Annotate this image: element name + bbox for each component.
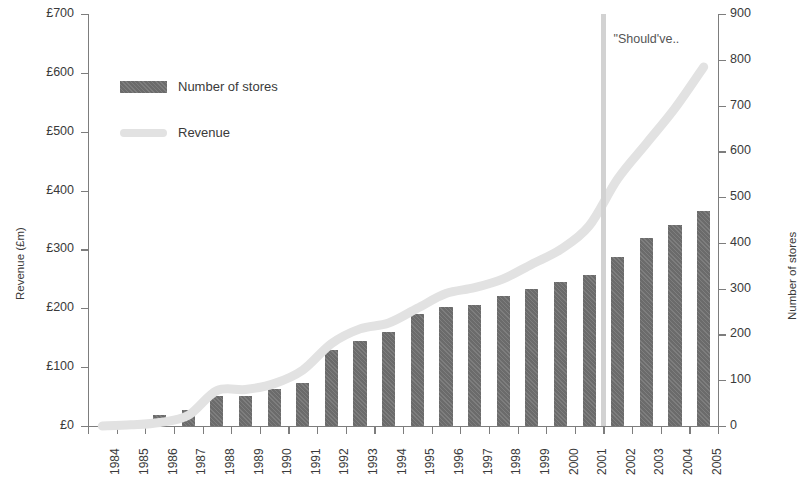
legend-label-revenue: Revenue — [178, 125, 230, 140]
x-tick — [403, 427, 404, 434]
y-tick-left — [81, 367, 88, 368]
y-axis-left-tick-label: £100 — [22, 359, 74, 373]
x-tick — [231, 427, 232, 434]
x-tick — [603, 427, 604, 434]
x-tick — [88, 427, 89, 434]
x-axis-tick-label: 2004 — [681, 448, 695, 475]
y-tick-right — [719, 380, 726, 381]
revenue-line-series — [88, 14, 718, 426]
legend-label-stores: Number of stores — [178, 79, 278, 94]
y-axis-right-title: Number of stores — [786, 232, 798, 320]
x-axis-tick-label: 1993 — [366, 448, 380, 475]
y-axis-left-tick-label: £500 — [22, 124, 74, 138]
y-axis-left-tick-label: £0 — [22, 418, 74, 432]
legend-bar-swatch-icon — [120, 81, 167, 93]
x-tick — [174, 427, 175, 434]
y-tick-left — [81, 426, 88, 427]
y-axis-left-tick-label: £300 — [22, 241, 74, 255]
y-tick-right — [719, 334, 726, 335]
y-axis-left-tick-label: £400 — [22, 183, 74, 197]
x-tick — [518, 427, 519, 434]
y-axis-right-tick-label: 700 — [730, 98, 751, 112]
y-tick-right — [719, 426, 726, 427]
y-tick-left — [81, 73, 88, 74]
x-tick — [346, 427, 347, 434]
x-axis-tick-label: 1995 — [423, 448, 437, 475]
x-axis-tick-label: 1994 — [395, 448, 409, 475]
y-axis-right-tick-label: 600 — [730, 143, 751, 157]
x-axis-tick-label: 2001 — [595, 448, 609, 475]
y-tick-right — [719, 289, 726, 290]
x-tick — [374, 427, 375, 434]
legend-item-stores: Number of stores — [120, 79, 278, 94]
x-axis-tick-label: 1987 — [194, 448, 208, 475]
y-axis-left-title: Revenue (£m) — [14, 227, 26, 300]
y-axis-left-tick-label: £700 — [22, 6, 74, 20]
y-axis-right-line — [718, 14, 719, 427]
annotation-label: "Should've.. — [613, 32, 679, 46]
x-tick — [317, 427, 318, 434]
x-axis-tick-label: 1990 — [280, 448, 294, 475]
annotation-vertical-line — [601, 14, 606, 426]
y-tick-right — [719, 243, 726, 244]
x-axis-tick-label: 1991 — [309, 448, 323, 475]
x-axis-tick-label: 1984 — [108, 448, 122, 475]
x-tick — [689, 427, 690, 434]
x-axis-tick-label: 1999 — [538, 448, 552, 475]
x-axis-tick-label: 1997 — [481, 448, 495, 475]
y-axis-left-tick-label: £200 — [22, 300, 74, 314]
x-axis-tick-label: 1988 — [223, 448, 237, 475]
x-tick — [489, 427, 490, 434]
x-tick — [432, 427, 433, 434]
y-axis-right-tick-label: 200 — [730, 326, 751, 340]
legend-line-swatch-icon — [120, 129, 167, 137]
y-tick-left — [81, 308, 88, 309]
y-tick-right — [719, 197, 726, 198]
y-tick-right — [719, 14, 726, 15]
y-tick-right — [719, 106, 726, 107]
x-axis-tick-label: 1986 — [166, 448, 180, 475]
legend-item-revenue: Revenue — [120, 125, 230, 140]
y-tick-left — [81, 132, 88, 133]
y-axis-right-tick-label: 0 — [730, 418, 737, 432]
x-axis-tick-label: 1989 — [252, 448, 266, 475]
x-axis-tick-label: 1992 — [337, 448, 351, 475]
x-tick — [546, 427, 547, 434]
y-axis-right-tick-label: 400 — [730, 235, 751, 249]
y-axis-right-tick-label: 100 — [730, 372, 751, 386]
x-tick — [632, 427, 633, 434]
revenue-and-stores-chart: Revenue (£m) Number of stores £0£100£200… — [0, 0, 801, 484]
y-axis-right-tick-label: 800 — [730, 52, 751, 66]
x-tick — [718, 427, 719, 434]
y-tick-left — [81, 191, 88, 192]
x-tick — [288, 427, 289, 434]
x-tick — [260, 427, 261, 434]
y-tick-right — [719, 60, 726, 61]
y-axis-right-tick-label: 900 — [730, 6, 751, 20]
y-axis-right-tick-label: 300 — [730, 281, 751, 295]
x-axis-tick-label: 2002 — [624, 448, 638, 475]
y-axis-left-tick-label: £600 — [22, 65, 74, 79]
y-axis-right-tick-label: 500 — [730, 189, 751, 203]
revenue-line-path — [102, 67, 703, 426]
x-axis-tick-label: 2003 — [652, 448, 666, 475]
x-axis-tick-label: 2000 — [567, 448, 581, 475]
x-axis-tick-label: 1998 — [509, 448, 523, 475]
x-tick — [661, 427, 662, 434]
y-tick-right — [719, 151, 726, 152]
x-axis-tick-label: 2005 — [710, 448, 724, 475]
x-axis-tick-label: 1996 — [452, 448, 466, 475]
y-tick-left — [81, 14, 88, 15]
x-axis-tick-label: 1985 — [137, 448, 151, 475]
plot-area: "Should've.. — [88, 14, 718, 426]
x-tick — [460, 427, 461, 434]
x-tick — [203, 427, 204, 434]
y-tick-left — [81, 249, 88, 250]
x-tick — [575, 427, 576, 434]
